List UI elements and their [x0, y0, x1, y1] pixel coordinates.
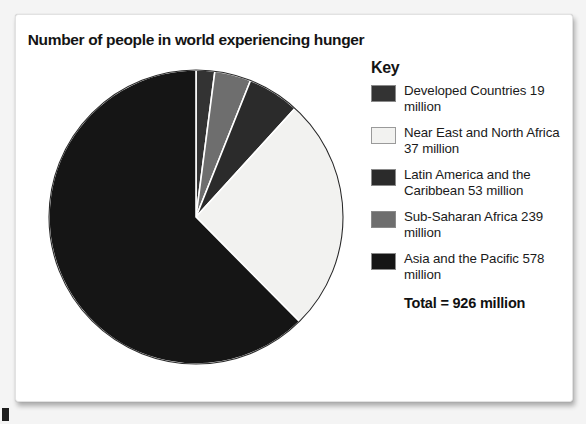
- legend-item-label: Sub-Saharan Africa 239 million: [404, 209, 564, 242]
- legend-item-label: Near East and North Africa 37 million: [404, 125, 564, 158]
- legend-item-label: Latin America and the Caribbean 53 milli…: [404, 167, 564, 200]
- legend-item: Latin America and the Caribbean 53 milli…: [371, 167, 571, 200]
- legend-item-list: Developed Countries 19 millionNear East …: [371, 83, 571, 284]
- legend-swatch-icon: [371, 253, 396, 270]
- pie-chart: [40, 61, 352, 373]
- legend-swatch-icon: [371, 169, 396, 186]
- legend-item-label: Developed Countries 19 million: [404, 83, 564, 116]
- legend-swatch-icon: [371, 85, 396, 102]
- pie-slice-group: [49, 70, 343, 364]
- legend: Key Developed Countries 19 millionNear E…: [371, 59, 571, 311]
- legend-item: Developed Countries 19 million: [371, 83, 571, 116]
- scan-artifact-mark: [2, 408, 9, 421]
- page-title: Number of people in world experiencing h…: [16, 31, 376, 49]
- legend-item: Sub-Saharan Africa 239 million: [371, 209, 571, 242]
- legend-item: Near East and North Africa 37 million: [371, 125, 571, 158]
- figure-card: Number of people in world experiencing h…: [15, 14, 573, 402]
- pie-chart-svg: [40, 61, 352, 373]
- legend-item-label: Asia and the Pacific 578 million: [404, 251, 564, 284]
- legend-swatch-icon: [371, 127, 396, 144]
- legend-swatch-icon: [371, 211, 396, 228]
- legend-item: Asia and the Pacific 578 million: [371, 251, 571, 284]
- legend-heading: Key: [371, 59, 571, 77]
- legend-total-label: Total = 926 million: [404, 295, 571, 311]
